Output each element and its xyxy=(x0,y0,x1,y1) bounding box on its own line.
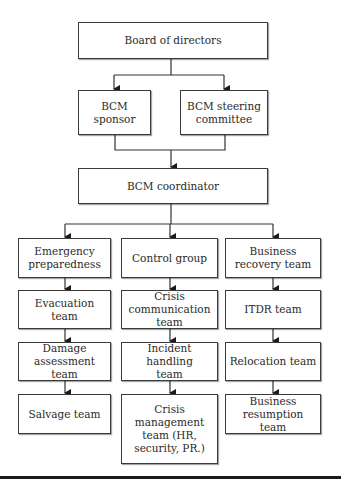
node-business-resumption-team: Business resumption team xyxy=(225,394,321,434)
node-emergency-preparedness: Emergency preparedness xyxy=(18,238,111,278)
node-damage-assessment-team: Damage assessment team xyxy=(18,342,111,381)
node-control-group: Control group xyxy=(121,238,218,278)
bottom-rule-divider xyxy=(0,476,341,479)
node-evacuation-team: Evacuation team xyxy=(18,290,111,329)
node-incident-handling-team: Incident handling team xyxy=(121,342,218,381)
node-bcm-steering-committee: BCM steering committee xyxy=(180,90,268,135)
node-crisis-communication-team: Crisis communication team xyxy=(121,290,218,329)
node-bcm-coordinator: BCM coordinator xyxy=(78,168,268,204)
node-crisis-management-team: Crisis management team (HR, security, PR… xyxy=(121,394,218,464)
node-bcm-sponsor: BCM sponsor xyxy=(78,90,151,135)
node-salvage-team: Salvage team xyxy=(18,394,111,434)
node-business-recovery-team: Business recovery team xyxy=(225,238,321,278)
node-itdr-team: ITDR team xyxy=(225,290,321,329)
node-board-of-directors: Board of directors xyxy=(78,22,268,59)
node-relocation-team: Relocation team xyxy=(225,342,321,381)
